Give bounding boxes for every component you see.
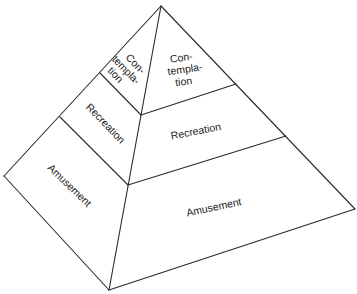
- label-line: tion: [174, 74, 193, 88]
- pyramid-diagram: Con- templa- tion Recreation Amusement C…: [0, 0, 357, 294]
